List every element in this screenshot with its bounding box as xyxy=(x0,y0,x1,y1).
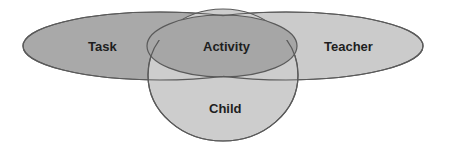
venn-diagram-canvas: Task Activity Teacher Child xyxy=(0,0,451,148)
activity-label: Activity xyxy=(203,39,251,54)
child-label: Child xyxy=(209,101,242,116)
task-label: Task xyxy=(88,39,117,54)
teacher-label: Teacher xyxy=(324,39,373,54)
venn-diagram: Task Activity Teacher Child xyxy=(0,0,451,148)
